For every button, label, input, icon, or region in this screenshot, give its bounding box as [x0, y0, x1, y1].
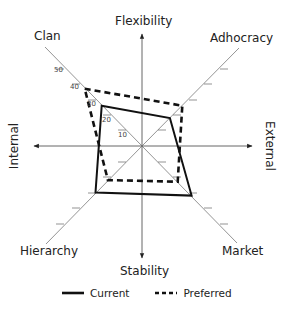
legend: Current Preferred	[62, 287, 258, 299]
label-hierarchy: Hierarchy	[20, 245, 78, 257]
label-adhocracy: Adhocracy	[210, 32, 273, 44]
label-clan: Clan	[34, 30, 61, 42]
legend-item-preferred: Preferred	[155, 287, 231, 299]
dashed-line-icon	[155, 290, 177, 296]
tick-label-10: 10	[118, 132, 127, 139]
adhocracy-axis	[142, 48, 239, 146]
legend-label-current: Current	[90, 287, 129, 299]
tick-label-20: 20	[102, 117, 111, 124]
label-market: Market	[222, 245, 263, 257]
tick-label-40: 40	[70, 84, 79, 91]
label-external: External	[264, 121, 276, 171]
legend-item-current: Current	[62, 287, 129, 299]
legend-label-preferred: Preferred	[183, 287, 231, 299]
label-stability: Stability	[120, 265, 169, 277]
hierarchy-axis	[46, 146, 142, 244]
tick-label-30: 30	[87, 101, 96, 108]
radar-chart	[0, 0, 285, 309]
label-flexibility: Flexibility	[115, 15, 172, 27]
label-internal: Internal	[8, 123, 20, 169]
solid-line-icon	[62, 290, 84, 296]
tick-label-50: 50	[54, 67, 63, 74]
